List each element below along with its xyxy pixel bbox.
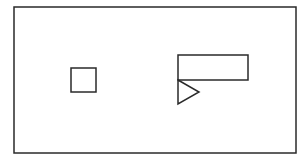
triangle-shape — [178, 80, 199, 104]
square-shape — [71, 68, 96, 92]
outer-frame — [14, 7, 296, 153]
rectangle-shape — [178, 55, 248, 80]
diagram-canvas — [0, 0, 306, 163]
